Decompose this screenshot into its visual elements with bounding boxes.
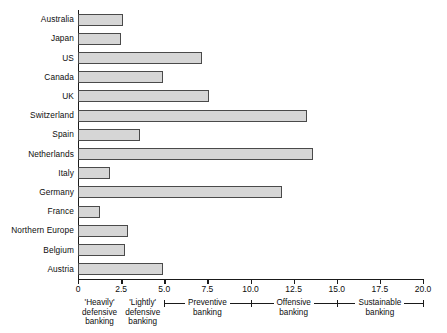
bar xyxy=(78,14,123,26)
x-tick-label: 10.0 xyxy=(242,285,259,294)
category-label: Italy xyxy=(58,169,74,177)
zone-bracket-cap xyxy=(251,300,252,307)
category-label: Switzerland xyxy=(30,111,74,119)
x-tick-label: 20.0 xyxy=(415,285,432,294)
zone-caption-line: banking xyxy=(125,317,160,327)
x-tick-label: 0 xyxy=(76,285,81,294)
category-axis-labels: AustraliaJapanUSCanadaUKSwitzerlandSpain… xyxy=(0,0,74,333)
bar xyxy=(78,33,121,45)
x-tick-label: 12.5 xyxy=(285,285,302,294)
bar xyxy=(78,129,140,141)
zone-caption: 'Heavily'defensivebanking xyxy=(82,298,117,327)
zone-bracket-rule xyxy=(404,303,423,304)
zone-caption: Sustainablebanking xyxy=(358,298,401,317)
zone-bracket-cap xyxy=(423,300,424,307)
category-label: UK xyxy=(62,92,74,100)
bar xyxy=(78,263,163,275)
zone-bracket-rule xyxy=(164,303,185,304)
zone-bracket-rule xyxy=(230,303,251,304)
zone-caption-line: banking xyxy=(188,308,227,318)
bar xyxy=(78,110,307,122)
bar xyxy=(78,52,202,64)
category-label: Canada xyxy=(44,73,74,81)
zone-caption-line: defensive xyxy=(125,308,160,318)
category-label: Belgium xyxy=(43,246,74,254)
zone-bracket-rule xyxy=(251,303,274,304)
x-tick-label: 2.5 xyxy=(115,285,127,294)
bar xyxy=(78,167,110,179)
category-label: Germany xyxy=(39,188,74,196)
bar xyxy=(78,206,100,218)
zone-caption: 'Lightly'defensivebanking xyxy=(125,298,160,327)
zone-bracket-cap xyxy=(337,300,338,307)
category-label: Japan xyxy=(51,34,74,42)
zone-bracket-rule xyxy=(337,303,356,304)
category-label: Northern Europe xyxy=(11,226,74,234)
x-tick-label: 5.0 xyxy=(158,285,170,294)
zone-caption-line: 'Lightly' xyxy=(125,298,160,308)
x-tick-label: 15.0 xyxy=(328,285,345,294)
category-label: Spain xyxy=(52,130,74,138)
category-label: Netherlands xyxy=(28,150,74,158)
bar xyxy=(78,244,125,256)
zone-caption-line: banking xyxy=(276,308,310,318)
zone-caption: Preventivebanking xyxy=(188,298,227,317)
x-tick-label: 7.5 xyxy=(201,285,213,294)
zone-caption-line: Preventive xyxy=(188,298,227,308)
zone-caption: Offensivebanking xyxy=(276,298,310,317)
bar xyxy=(78,90,209,102)
bar xyxy=(78,148,313,160)
zone-caption-line: banking xyxy=(82,317,117,327)
zone-caption-line: Offensive xyxy=(276,298,310,308)
bar xyxy=(78,225,128,237)
bar-chart: AustraliaJapanUSCanadaUKSwitzerlandSpain… xyxy=(0,0,447,333)
category-label: US xyxy=(62,54,74,62)
category-label: France xyxy=(48,207,74,215)
category-label: Australia xyxy=(41,15,74,23)
category-label: Austria xyxy=(47,265,74,273)
plot-area xyxy=(78,10,423,278)
zone-bracket-rule xyxy=(314,303,337,304)
bar xyxy=(78,71,163,83)
zone-caption-line: Sustainable xyxy=(358,298,401,308)
zone-bracket-cap xyxy=(164,300,165,307)
zone-caption-line: defensive xyxy=(82,308,117,318)
x-tick-label: 17.5 xyxy=(372,285,389,294)
zone-caption-line: banking xyxy=(358,308,401,318)
zone-caption-line: 'Heavily' xyxy=(82,298,117,308)
bar xyxy=(78,186,282,198)
